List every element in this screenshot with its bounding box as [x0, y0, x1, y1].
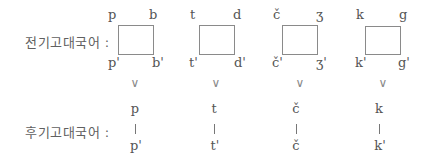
phoneme-box — [365, 26, 401, 55]
phoneme-box — [118, 25, 154, 55]
corner-top-left: č — [273, 8, 280, 22]
corner-top-left: t — [190, 8, 195, 22]
transition-arrow-icon: ∨ — [379, 77, 388, 89]
transition-arrow-icon: ∨ — [131, 77, 140, 89]
transition-arrow-icon: ∨ — [212, 77, 221, 89]
phoneme-box — [282, 25, 318, 55]
corner-bottom-left: t' — [189, 56, 198, 70]
late-bottom-phoneme: p' — [130, 139, 142, 153]
late-bottom-phoneme: t' — [211, 139, 220, 153]
late-top-phoneme: k — [375, 102, 383, 116]
corner-top-right: d — [233, 8, 241, 22]
corner-bottom-left: č' — [272, 56, 283, 70]
connector-line — [379, 124, 380, 134]
connector-line — [296, 124, 297, 134]
transition-arrow-icon: ∨ — [296, 77, 305, 89]
corner-bottom-right: ʒ' — [316, 56, 327, 70]
corner-top-right: ʒ — [316, 8, 323, 22]
corner-top-right: g — [399, 8, 407, 22]
early-old-korean-label: 전기고대국어 : — [25, 32, 110, 51]
corner-top-right: b — [149, 8, 157, 22]
connector-line — [214, 124, 215, 134]
late-bottom-phoneme: č — [292, 139, 299, 153]
connector-line — [135, 124, 136, 134]
phoneme-box — [199, 25, 235, 55]
corner-bottom-left: p' — [108, 56, 120, 70]
corner-bottom-left: k' — [355, 56, 366, 70]
corner-bottom-right: b' — [152, 56, 164, 70]
corner-bottom-right: g' — [398, 56, 410, 70]
corner-top-left: p — [108, 8, 116, 22]
corner-top-left: k — [356, 8, 364, 22]
late-old-korean-label: 후기고대국어 : — [25, 122, 110, 141]
late-top-phoneme: t — [211, 102, 216, 116]
late-top-phoneme: č — [292, 102, 299, 116]
corner-bottom-right: d' — [234, 56, 246, 70]
late-top-phoneme: p — [131, 102, 139, 116]
late-bottom-phoneme: k' — [374, 139, 385, 153]
